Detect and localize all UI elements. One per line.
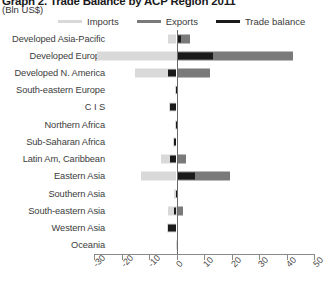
chart-row: C I S <box>0 99 324 116</box>
bar-imports <box>141 172 176 181</box>
legend-swatch-exports <box>137 20 161 23</box>
bar-exports <box>177 155 187 164</box>
chart-row: Developed N. America <box>0 64 324 81</box>
chart-x-axis: -30-20-1001020304050 <box>94 254 314 284</box>
chart-row: South-eastern Asia <box>0 202 324 219</box>
row-bars <box>94 151 314 168</box>
bar-trade-balance <box>177 52 213 59</box>
chart-plot-area: Developed Asia-PacificDeveloped EuropeDe… <box>0 30 324 262</box>
legend-item-imports: Imports <box>58 16 119 27</box>
category-label: South-eastern Asia <box>0 206 105 216</box>
legend-swatch-trade-balance <box>216 20 240 23</box>
category-label: Northern Africa <box>0 120 105 130</box>
chart-row: Sub-Saharan Africa <box>0 133 324 150</box>
row-bars <box>94 82 314 99</box>
category-label: C I S <box>0 102 105 112</box>
chart-row: Oceania <box>0 237 324 254</box>
row-bars <box>94 133 314 150</box>
bar-exports <box>177 69 210 78</box>
category-label: Eastern Asia <box>0 171 105 181</box>
zero-line <box>177 99 178 116</box>
zero-line <box>177 47 178 64</box>
zero-line <box>177 82 178 99</box>
category-label: Western Asia <box>0 223 105 233</box>
chart-row: South-eastern Europe <box>0 82 324 99</box>
category-label: Oceania <box>0 240 105 250</box>
chart-row: Eastern Asia <box>0 168 324 185</box>
category-label: South-eastern Europe <box>0 85 105 95</box>
category-label: Southern Asia <box>0 189 105 199</box>
zero-line <box>177 168 178 185</box>
row-bars <box>94 168 314 185</box>
zero-line <box>177 151 178 168</box>
axis-tick-label: 0 <box>174 258 185 269</box>
chart-subtitle: (Bln US$) <box>2 4 43 15</box>
category-label: Developed N. America <box>0 68 105 78</box>
legend-label-imports: Imports <box>87 16 119 27</box>
zero-line <box>177 202 178 219</box>
zero-line <box>177 185 178 202</box>
row-bars <box>94 47 314 64</box>
chart-bar-rows: Developed Asia-PacificDeveloped EuropeDe… <box>0 30 324 254</box>
chart-row: Developed Europe <box>0 47 324 64</box>
row-bars <box>94 99 314 116</box>
bar-imports <box>168 34 177 43</box>
category-label: Sub-Saharan Africa <box>0 137 105 147</box>
zero-line <box>177 219 178 236</box>
legend-label-trade-balance: Trade balance <box>245 16 305 27</box>
legend-label-exports: Exports <box>166 16 198 27</box>
category-label: Developed Europe <box>0 51 105 61</box>
zero-line <box>177 133 178 150</box>
bar-imports <box>97 51 177 60</box>
row-bars <box>94 64 314 81</box>
zero-line <box>177 64 178 81</box>
zero-line <box>177 116 178 133</box>
row-bars <box>94 185 314 202</box>
category-label: Developed Asia-Pacific <box>0 34 105 44</box>
legend-item-trade-balance: Trade balance <box>216 16 305 27</box>
bar-trade-balance <box>177 173 195 180</box>
chart-legend: Imports Exports Trade balance <box>58 15 324 27</box>
row-bars <box>94 116 314 133</box>
row-bars <box>94 237 314 254</box>
zero-line <box>177 237 178 254</box>
legend-swatch-imports <box>58 20 82 23</box>
row-bars <box>94 202 314 219</box>
chart-row: Northern Africa <box>0 116 324 133</box>
chart-row: Southern Asia <box>0 185 324 202</box>
bar-trade-balance <box>168 70 177 77</box>
bar-trade-balance <box>168 225 177 232</box>
category-label: Latin Am, Caribbean <box>0 154 105 164</box>
zero-line <box>177 30 178 47</box>
row-bars <box>94 219 314 236</box>
row-bars <box>94 30 314 47</box>
chart-row: Western Asia <box>0 219 324 236</box>
chart-row: Developed Asia-Pacific <box>0 30 324 47</box>
legend-item-exports: Exports <box>137 16 198 27</box>
axis-tick-label: 50 <box>311 255 324 269</box>
chart-row: Latin Am, Caribbean <box>0 151 324 168</box>
